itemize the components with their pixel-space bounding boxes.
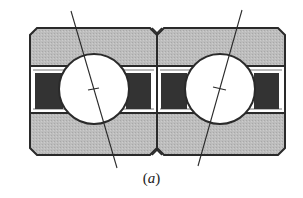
left-bearing — [30, 11, 157, 168]
right-bearing — [157, 10, 285, 166]
bearing-pair-diagram — [0, 0, 303, 198]
figure-caption: (a) — [0, 170, 303, 187]
right-seal-inner — [161, 73, 187, 109]
caption-close-paren: ) — [155, 170, 160, 186]
right-seal-outer — [254, 73, 279, 109]
